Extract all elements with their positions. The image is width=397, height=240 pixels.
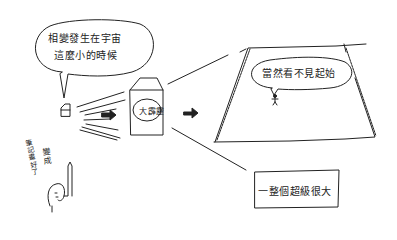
universe-plane (214, 44, 376, 142)
small-universe-icon (61, 104, 70, 116)
person-figure (48, 162, 72, 212)
projection-lines (168, 55, 246, 170)
speech-bubble-text-line2: 這麼小的時候 (54, 47, 117, 62)
expansion-lines (77, 92, 125, 140)
big-bang-label: 大霹靂 (139, 105, 165, 116)
side-note-short: 變成 (41, 148, 51, 166)
caption-text: 一整個超級很大 (258, 183, 332, 198)
observer-figure (272, 95, 278, 106)
observer-speech-text: 當然看不見起始 (262, 65, 336, 80)
speech-bubble-text-line1: 相變發生在宇宙 (48, 30, 122, 45)
right-arrow-icon (184, 108, 198, 118)
